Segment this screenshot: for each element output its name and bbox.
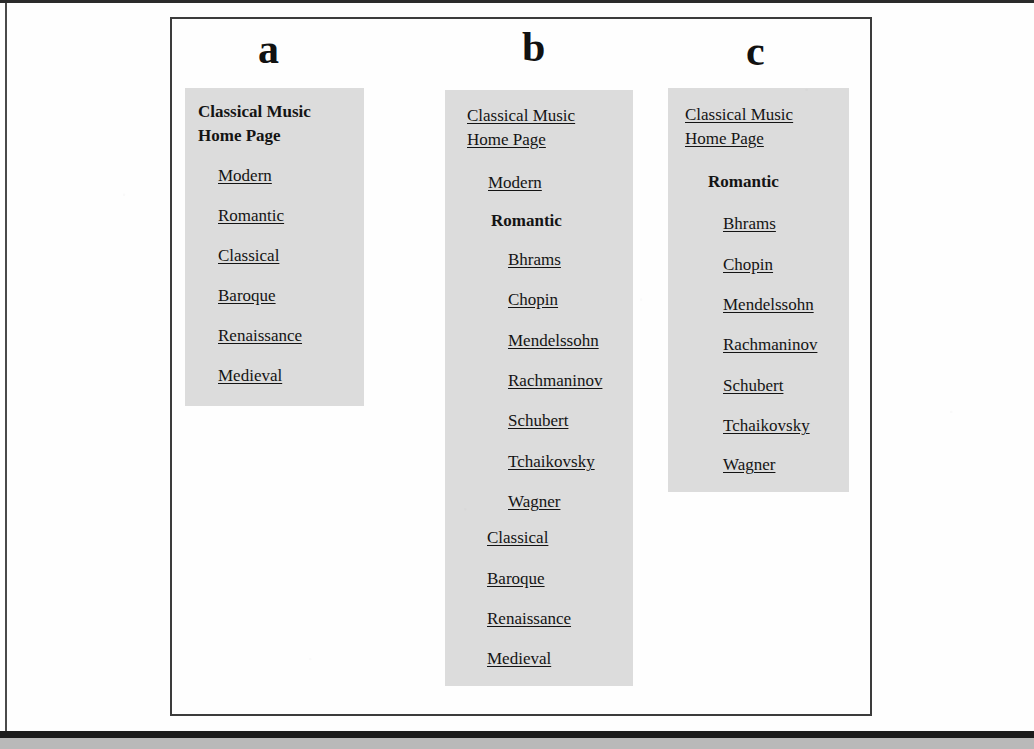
panel-b-link-baroque[interactable]: Baroque (487, 569, 545, 589)
panel-c-link-schubert[interactable]: Schubert (723, 376, 783, 396)
panel-b-link-renaissance[interactable]: Renaissance (487, 609, 571, 629)
panel-b-link-tchaikovsky[interactable]: Tchaikovsky (508, 452, 595, 472)
panel-c-link-wagner[interactable]: Wagner (723, 455, 775, 475)
panel-a-link-classical[interactable]: Classical (218, 246, 279, 266)
panel-c-link-tchaikovsky[interactable]: Tchaikovsky (723, 416, 810, 436)
panel-c-link-chopin[interactable]: Chopin (723, 255, 773, 275)
panel-a-link-medieval[interactable]: Medieval (218, 366, 282, 386)
panel-b-link-wagner[interactable]: Wagner (508, 492, 560, 512)
scan-left-edge-artifact (5, 3, 7, 733)
panel-c-home-page-link[interactable]: Classical Music Home Page (685, 103, 817, 151)
panel-label-a: a (258, 28, 279, 70)
panel-a-link-modern[interactable]: Modern (218, 166, 272, 186)
panel-c-link-bhrams[interactable]: Bhrams (723, 214, 776, 234)
panel-b-home-page-link[interactable]: Classical Music Home Page (467, 104, 599, 152)
panel-b-link-rachmaninov[interactable]: Rachmaninov (508, 371, 602, 391)
panel-b-link-classical[interactable]: Classical (487, 528, 548, 548)
panel-label-b: b (522, 26, 545, 68)
panel-b-link-modern[interactable]: Modern (488, 173, 542, 193)
panel-c-link-mendelssohn[interactable]: Mendelssohn (723, 295, 814, 315)
panel-c-current-romantic: Romantic (708, 172, 779, 192)
scan-bottom-gray-artifact (0, 738, 1034, 749)
panel-label-c: c (746, 30, 765, 72)
panel-a-link-romantic[interactable]: Romantic (218, 206, 284, 226)
scan-top-edge-artifact (0, 0, 1034, 3)
panel-b-link-schubert[interactable]: Schubert (508, 411, 568, 431)
panel-c-link-rachmaninov[interactable]: Rachmaninov (723, 335, 817, 355)
panel-a-link-renaissance[interactable]: Renaissance (218, 326, 302, 346)
panel-b-link-medieval[interactable]: Medieval (487, 649, 551, 669)
panel-a-home-page-title: Classical Music Home Page (198, 100, 330, 148)
panel-b-link-bhrams[interactable]: Bhrams (508, 250, 561, 270)
panel-b-link-chopin[interactable]: Chopin (508, 290, 558, 310)
panel-b-current-romantic: Romantic (491, 211, 562, 231)
scan-bottom-edge-artifact (0, 731, 1034, 738)
panel-a-link-baroque[interactable]: Baroque (218, 286, 276, 306)
panel-b-link-mendelssohn[interactable]: Mendelssohn (508, 331, 599, 351)
